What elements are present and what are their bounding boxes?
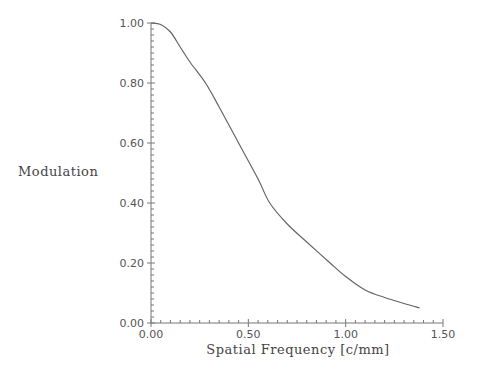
x-tick-label: 1.00 — [333, 328, 358, 341]
tick-labels: 0.000.200.400.600.801.000.000.501.001.50 — [120, 17, 456, 341]
x-tick-label: 1.50 — [431, 328, 456, 341]
axis-ticks — [147, 23, 443, 327]
mtf-chart: 0.000.200.400.600.801.000.000.501.001.50… — [0, 0, 477, 369]
y-tick-label: 0.20 — [120, 257, 145, 270]
x-axis-title: Spatial Frequency [c/mm] — [206, 342, 389, 357]
y-axis-title: Modulation — [18, 164, 98, 179]
y-tick-label: 0.60 — [120, 137, 145, 150]
y-tick-label: 1.00 — [120, 17, 145, 30]
x-tick-label: 0.00 — [139, 328, 164, 341]
x-tick-label: 0.50 — [236, 328, 261, 341]
y-tick-label: 0.40 — [120, 197, 145, 210]
y-tick-label: 0.80 — [120, 77, 145, 90]
mtf-curve — [151, 23, 420, 308]
